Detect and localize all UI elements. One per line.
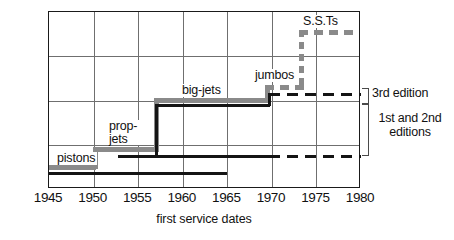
gridline-y-1 (49, 145, 359, 146)
brace-third-edition (362, 88, 369, 104)
x-tick-1970: 1970 (249, 190, 293, 205)
series-label-jumbos: jumbos (253, 69, 296, 82)
series-label-propjets: prop- jets (107, 120, 139, 145)
black-riser-propjets-to-bigjets (155, 104, 158, 155)
legend-first-second-editions: 1st and 2nd editions (370, 112, 450, 139)
black-step-propjets-dashed-tail (269, 155, 361, 158)
x-tick-1975: 1975 (293, 190, 337, 205)
black-step-pistons (49, 172, 227, 175)
gridline-x-1955 (138, 12, 139, 187)
series-label-bigjets: big-jets (180, 84, 223, 97)
gridline-x-1975 (316, 12, 317, 187)
y-axis-label: complexity of design and increasing weig… (0, 0, 6, 6)
chart-figure: complexity of design and increasing weig… (0, 0, 454, 240)
series-label-propjets-line1: prop- (109, 120, 137, 133)
gray-step-propjets (93, 147, 159, 152)
gridline-x-1970 (272, 12, 273, 187)
x-tick-1950: 1950 (71, 190, 115, 205)
plot-area: pistons prop- jets big-jets jumbos S.S.T… (48, 11, 360, 188)
x-axis-label: first service dates (48, 212, 360, 226)
x-tick-1980: 1980 (338, 190, 382, 205)
x-axis-ticks: 1945 1950 1955 1960 1965 1970 1975 1980 (48, 190, 360, 208)
black-step-propjets (118, 155, 270, 158)
legend-first-second-line2: editions (370, 126, 450, 140)
gray-step-pistons (49, 165, 96, 170)
x-tick-1960: 1960 (160, 190, 204, 205)
black-step-jumbos (269, 93, 361, 96)
x-tick-1955: 1955 (115, 190, 159, 205)
black-step-bigjets (155, 104, 270, 107)
series-label-pistons: pistons (55, 152, 97, 165)
x-tick-1945: 1945 (26, 190, 70, 205)
gray-riser-jumbos-to-ssts (299, 30, 304, 90)
gray-step-bigjets (154, 98, 270, 103)
brace-first-second-editions (362, 104, 369, 156)
legend-first-second-line1: 1st and 2nd (370, 112, 450, 126)
gridline-y-3 (49, 56, 359, 57)
x-tick-1965: 1965 (204, 190, 248, 205)
legend-third-edition: 3rd edition (372, 87, 428, 101)
series-label-ssts: S.S.Ts (301, 15, 340, 28)
gray-step-ssts (299, 30, 359, 35)
series-label-propjets-line2: jets (109, 133, 137, 146)
